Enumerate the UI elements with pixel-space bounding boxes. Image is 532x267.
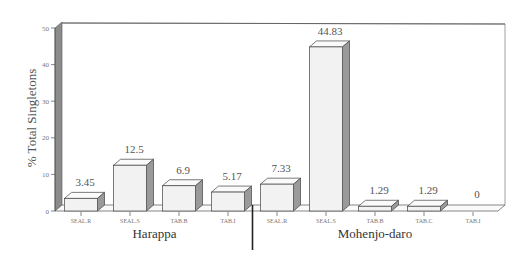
y-tick-label: 40 (42, 61, 50, 69)
x-tick-label: SEAL.R (71, 218, 92, 224)
bar: 3.45 (65, 176, 105, 211)
x-tick-label: TAB.I (465, 218, 480, 224)
x-tick-label: TAB.C (415, 218, 432, 224)
value-label: 6.9 (176, 164, 190, 176)
bar: 7.33 (261, 162, 301, 211)
x-tick-label: TAB.I (220, 218, 235, 224)
value-label: 3.45 (75, 176, 95, 188)
y-tick-label: 30 (42, 98, 50, 106)
value-label: 5.17 (222, 170, 242, 182)
bar: 0 (474, 188, 480, 200)
y-tick-label: 20 (42, 134, 50, 142)
bar: 1.29 (359, 184, 399, 211)
bar: 5.17 (212, 170, 252, 211)
y-tick-label: 50 (42, 25, 50, 33)
bars: 3.4512.56.95.177.3344.831.291.290 (65, 25, 481, 211)
y-axis-label: % Total Singletons (24, 69, 39, 168)
y-tick-label: 10 (42, 171, 50, 179)
y-tick-label: 0 (46, 208, 50, 216)
group-label: Mohenjo-daro (338, 226, 412, 241)
bar: 1.29 (408, 184, 448, 211)
group-label: Harappa (132, 226, 176, 241)
x-tick-label: SEAL.R (267, 218, 288, 224)
x-tick-label: SEAL.S (120, 218, 140, 224)
value-label: 12.5 (124, 143, 144, 155)
value-label: 1.29 (369, 184, 389, 196)
x-tick-label: TAB.B (170, 218, 187, 224)
value-label: 7.33 (271, 162, 291, 174)
x-axis: SEAL.RSEAL.STAB.BTAB.ISEAL.RSEAL.STAB.BT… (71, 205, 481, 250)
bar: 6.9 (163, 164, 203, 211)
bar-chart: 01020304050 3.4512.56.95.177.3344.831.29… (0, 0, 532, 267)
x-tick-label: TAB.B (366, 218, 383, 224)
value-label: 44.83 (318, 25, 343, 37)
y-axis: 01020304050 (42, 25, 55, 216)
value-label: 0 (474, 188, 480, 200)
bar: 12.5 (114, 143, 154, 211)
value-label: 1.29 (418, 184, 438, 196)
x-tick-label: SEAL.S (316, 218, 336, 224)
bar: 44.83 (310, 25, 350, 211)
